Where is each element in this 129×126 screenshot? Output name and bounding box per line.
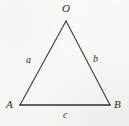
vertex-label-o: O bbox=[62, 3, 70, 14]
side-label-a: a bbox=[26, 55, 31, 65]
vertex-label-a: A bbox=[6, 99, 13, 110]
side-label-b: b bbox=[93, 54, 98, 64]
triangle-figure: O A B a b c bbox=[0, 0, 129, 126]
vertex-label-b: B bbox=[114, 99, 121, 110]
triangle-side-b bbox=[66, 21, 110, 105]
side-label-c: c bbox=[63, 110, 67, 120]
triangle-drawing bbox=[0, 0, 129, 126]
